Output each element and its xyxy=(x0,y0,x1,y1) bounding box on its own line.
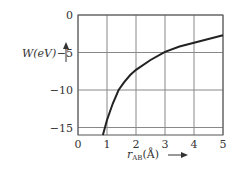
svg-text:−15: −15 xyxy=(50,122,73,135)
svg-text:4: 4 xyxy=(191,138,198,151)
plot-frame xyxy=(78,15,223,135)
x-axis-arrow-icon xyxy=(168,152,188,158)
svg-text:0: 0 xyxy=(75,138,82,151)
svg-text:5: 5 xyxy=(220,138,227,151)
y-axis-label: W(eV) xyxy=(22,47,56,60)
energy-curve xyxy=(103,35,223,135)
y-tick-labels: 0−5−10−15 xyxy=(50,9,73,135)
svg-text:1: 1 xyxy=(104,138,111,151)
svg-text:3: 3 xyxy=(162,138,169,151)
energy-chart: 012345 0−5−10−15 W(eV) rAB(Å) xyxy=(0,0,237,174)
svg-text:−10: −10 xyxy=(50,84,73,97)
grid-lines xyxy=(78,15,223,135)
svg-text:2: 2 xyxy=(133,138,140,151)
svg-text:0: 0 xyxy=(66,9,73,22)
x-axis-label: rAB(Å) xyxy=(127,147,159,162)
